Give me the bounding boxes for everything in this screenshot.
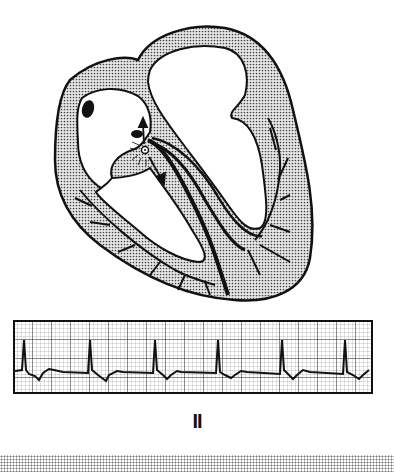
heart-diagram (0, 0, 394, 310)
ecg-rhythm-strip (13, 320, 373, 394)
ecg-grid (14, 321, 372, 393)
ecg-strip (13, 320, 373, 394)
heart-illustration (0, 0, 394, 310)
dotted-border-band (0, 455, 394, 472)
ecg-lead-label: II (0, 410, 394, 433)
av-node (131, 130, 143, 138)
